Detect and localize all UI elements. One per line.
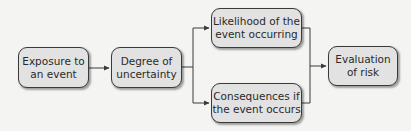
node-consequences: Consequences ifthe event occurs <box>211 83 302 123</box>
arrow-to-likelihood <box>193 28 209 67</box>
node-uncertainty-line2: uncertainty <box>116 68 176 81</box>
node-evaluation: Evaluationof risk <box>328 46 398 86</box>
node-uncertainty: Degree ofuncertainty <box>111 47 182 88</box>
arrow-to-consequences <box>193 67 209 103</box>
node-exposure: Exposure toan event <box>18 47 89 88</box>
node-exposure-line2: an event <box>22 68 85 81</box>
node-likelihood: Likelihood of theevent occurring <box>211 8 302 48</box>
node-consequences-line2: the event occurs <box>212 103 300 116</box>
node-consequences-line1: Consequences if <box>212 90 300 103</box>
node-likelihood-line2: event occurring <box>213 28 300 41</box>
node-exposure-line1: Exposure to <box>22 55 85 68</box>
line-likelihood-out <box>302 28 310 103</box>
node-evaluation-line2: of risk <box>335 66 390 79</box>
node-uncertainty-line1: Degree of <box>116 55 176 68</box>
node-likelihood-line1: Likelihood of the <box>213 15 300 28</box>
node-evaluation-line1: Evaluation <box>335 53 390 66</box>
